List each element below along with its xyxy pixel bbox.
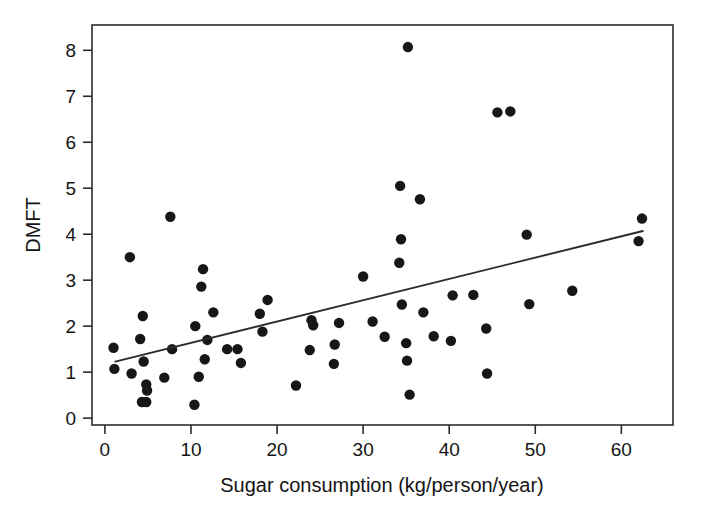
data-point [135,334,145,344]
y-tick-label-0: 0 [65,408,76,429]
data-point [402,355,412,365]
x-tick-label-60: 60 [611,439,632,460]
data-point [291,380,301,390]
data-point [395,181,405,191]
x-tick-label-20: 20 [266,439,287,460]
y-tick-label-8: 8 [65,40,76,61]
data-point [108,343,118,353]
data-point [403,42,413,52]
data-point [429,331,439,341]
data-point [138,311,148,321]
data-point [138,356,148,366]
y-tick-label-4: 4 [65,224,76,245]
data-point [125,252,135,262]
data-point [109,364,119,374]
data-point [232,344,242,354]
x-axis-ticks [105,425,621,434]
data-point [482,368,492,378]
data-point [468,290,478,300]
data-point [198,264,208,274]
data-point [379,332,389,342]
data-point [446,336,456,346]
x-tick-label-40: 40 [439,439,460,460]
data-point [404,389,414,399]
y-tick-label-2: 2 [65,316,76,337]
data-point [236,358,246,368]
x-tick-label-50: 50 [525,439,546,460]
data-point [397,299,407,309]
data-point [329,359,339,369]
x-tick-label-0: 0 [100,439,111,460]
y-tick-label-1: 1 [65,362,76,383]
data-point [418,307,428,317]
data-point [255,309,265,319]
y-tick-label-6: 6 [65,132,76,153]
data-point [126,368,136,378]
y-tick-label-3: 3 [65,270,76,291]
data-point [633,236,643,246]
y-axis-ticks [83,50,92,418]
data-point [141,397,151,407]
x-tick-label-30: 30 [353,439,374,460]
data-point [358,271,368,281]
data-point [524,299,534,309]
data-point [165,212,175,222]
x-tick-label-10: 10 [180,439,201,460]
data-point [222,344,232,354]
data-point [142,385,152,395]
data-point [521,229,531,239]
data-point [567,286,577,296]
data-point [190,321,200,331]
data-point [330,339,340,349]
data-point [447,290,457,300]
data-point [262,295,272,305]
data-point [194,372,204,382]
y-tick-label-7: 7 [65,86,76,107]
data-point [401,338,411,348]
data-point [189,400,199,410]
y-axis-title: DMFT [22,197,44,253]
data-point [159,372,169,382]
data-point [394,258,404,268]
data-point [334,318,344,328]
data-point [492,107,502,117]
data-point [505,106,515,116]
axes-frame [92,25,673,425]
data-point [367,316,377,326]
regression-line [115,231,643,362]
data-point [415,194,425,204]
data-points [108,42,647,410]
data-point [257,326,267,336]
plot-frame [92,25,673,425]
data-point [637,213,647,223]
data-point [200,354,210,364]
data-point [196,281,206,291]
plot-canvas: 0102030405060 012345678 Sugar consumptio… [0,0,705,518]
data-point [308,320,318,330]
y-axis-tick-labels: 012345678 [65,40,76,429]
data-point [208,307,218,317]
y-tick-label-5: 5 [65,178,76,199]
data-point [481,323,491,333]
data-point [396,234,406,244]
x-axis-title: Sugar consumption (kg/person/year) [220,474,544,496]
x-axis-tick-labels: 0102030405060 [100,439,632,460]
data-point [305,345,315,355]
scatter-chart: 0102030405060 012345678 Sugar consumptio… [0,0,705,518]
